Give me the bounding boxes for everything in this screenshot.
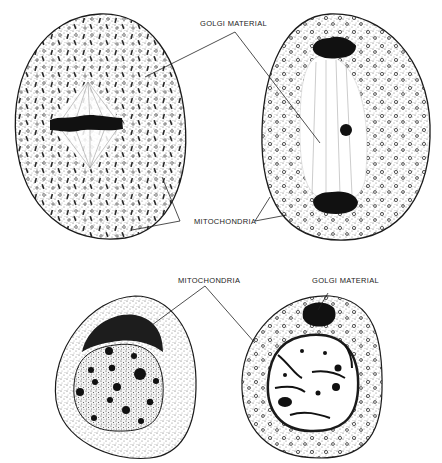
- label-mitochondria-bottom: MITOCHONDRIA: [178, 276, 240, 285]
- cell-illustration: [0, 0, 442, 463]
- cell-diagram: GOLGI MATERIAL MITOCHONDRIA MITOCHONDRIA…: [0, 0, 442, 463]
- label-golgi-bottom: GOLGI MATERIAL: [312, 276, 379, 285]
- label-golgi-top: GOLGI MATERIAL: [200, 19, 267, 28]
- cell-bottom-right: [242, 296, 382, 458]
- cell-bottom-left: [55, 296, 196, 458]
- label-mitochondria-top: MITOCHONDRIA: [194, 217, 256, 226]
- cell-top-right: [262, 14, 430, 240]
- cell-top-left: [15, 14, 185, 239]
